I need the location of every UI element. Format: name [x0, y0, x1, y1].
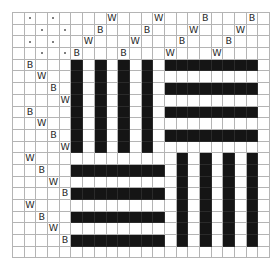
- grid-cell: [258, 188, 270, 200]
- filled-cell: [200, 212, 212, 224]
- grid-cell: [95, 177, 107, 189]
- grid-cell: [188, 36, 200, 48]
- grid-cell: [258, 95, 270, 107]
- weave-grid: WWBBBBWWWWBBBBWWBWBWBWBWWBWBWBWB: [12, 12, 270, 258]
- grid-cell: [107, 60, 119, 72]
- threading-letter: B: [118, 48, 130, 60]
- filled-cell: [153, 212, 165, 224]
- grid-cell: [83, 13, 95, 25]
- grid-cell: [200, 48, 212, 60]
- filled-cell: [223, 235, 235, 247]
- threading-letter: B: [36, 212, 48, 224]
- filled-cell: [177, 83, 189, 95]
- grid-cell: [258, 83, 270, 95]
- threading-letter: W: [25, 200, 37, 212]
- filled-cell: [130, 188, 142, 200]
- grid-cell: [188, 142, 200, 154]
- grid-cell: [25, 118, 37, 130]
- grid-cell: [48, 60, 60, 72]
- grid-cell: [165, 212, 177, 224]
- grid-cell: [177, 95, 189, 107]
- grid-cell: [212, 153, 224, 165]
- grid-cell: [153, 60, 165, 72]
- filled-cell: [235, 107, 247, 119]
- filled-cell: [223, 200, 235, 212]
- grid-cell: [95, 247, 107, 259]
- filled-cell: [165, 107, 177, 119]
- grid-cell: [235, 153, 247, 165]
- threading-letter: B: [36, 165, 48, 177]
- grid-cell: [188, 212, 200, 224]
- dot-marker: [60, 25, 72, 37]
- filled-cell: [71, 95, 83, 107]
- grid-cell: [223, 13, 235, 25]
- grid-cell: [48, 235, 60, 247]
- threading-letter: W: [212, 48, 224, 60]
- grid-cell: [235, 36, 247, 48]
- grid-cell: [188, 177, 200, 189]
- grid-cell: [153, 48, 165, 60]
- grid-cell: [25, 212, 37, 224]
- filled-cell: [142, 212, 154, 224]
- filled-cell: [142, 165, 154, 177]
- dot-marker: [36, 48, 48, 60]
- filled-cell: [223, 130, 235, 142]
- grid-cell: [212, 235, 224, 247]
- grid-cell: [60, 13, 72, 25]
- dot-marker: [25, 36, 37, 48]
- grid-cell: [177, 71, 189, 83]
- threading-letter: B: [200, 13, 212, 25]
- grid-cell: [235, 95, 247, 107]
- threading-letter: W: [153, 13, 165, 25]
- grid-cell: [83, 153, 95, 165]
- grid-cell: [107, 83, 119, 95]
- grid-cell: [95, 48, 107, 60]
- grid-cell: [48, 188, 60, 200]
- grid-cell: [177, 13, 189, 25]
- filled-cell: [83, 165, 95, 177]
- grid-cell: [258, 153, 270, 165]
- filled-cell: [200, 83, 212, 95]
- filled-cell: [95, 130, 107, 142]
- grid-cell: [165, 13, 177, 25]
- grid-cell: [107, 153, 119, 165]
- grid-cell: [71, 177, 83, 189]
- grid-cell: [153, 142, 165, 154]
- filled-cell: [177, 153, 189, 165]
- grid-cell: [130, 142, 142, 154]
- grid-cell: [235, 142, 247, 154]
- grid-cell: [83, 60, 95, 72]
- filled-cell: [247, 107, 259, 119]
- filled-cell: [142, 130, 154, 142]
- grid-cell: [83, 177, 95, 189]
- filled-cell: [177, 212, 189, 224]
- grid-cell: [60, 212, 72, 224]
- filled-cell: [177, 165, 189, 177]
- grid-cell: [235, 235, 247, 247]
- grid-cell: [95, 13, 107, 25]
- grid-cell: [13, 235, 25, 247]
- filled-cell: [71, 165, 83, 177]
- grid-cell: [188, 188, 200, 200]
- grid-cell: [258, 212, 270, 224]
- filled-cell: [118, 130, 130, 142]
- filled-cell: [212, 83, 224, 95]
- filled-cell: [71, 235, 83, 247]
- grid-cell: [258, 200, 270, 212]
- filled-cell: [200, 107, 212, 119]
- filled-cell: [165, 130, 177, 142]
- threading-letter: W: [48, 177, 60, 189]
- filled-cell: [118, 83, 130, 95]
- grid-cell: [258, 165, 270, 177]
- grid-cell: [200, 36, 212, 48]
- grid-cell: [153, 223, 165, 235]
- grid-cell: [25, 177, 37, 189]
- grid-cell: [48, 107, 60, 119]
- grid-cell: [71, 13, 83, 25]
- filled-cell: [130, 235, 142, 247]
- filled-cell: [95, 118, 107, 130]
- grid-cell: [107, 247, 119, 259]
- filled-cell: [71, 188, 83, 200]
- grid-cell: [165, 153, 177, 165]
- grid-cell: [25, 48, 37, 60]
